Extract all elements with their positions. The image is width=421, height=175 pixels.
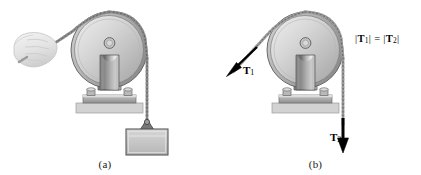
eq-left-symbol: T (357, 33, 364, 44)
mounting-bolt-right (124, 88, 132, 96)
base-slab (272, 103, 339, 113)
panel-b: (b) (210, 0, 421, 175)
panel-a-caption: (a) (0, 158, 210, 170)
block-hook (140, 119, 154, 130)
mounting-bolt-right (320, 88, 328, 96)
pulley-bracket-front (100, 55, 119, 90)
hanging-block (126, 129, 168, 155)
figure-container: (a) (0, 0, 421, 175)
eq-right-bar-close: | (397, 33, 399, 44)
tension-equality-equation: |T1| = |T2| (355, 33, 399, 45)
panel-a: (a) (0, 0, 210, 175)
eq-left-bar-close: | (369, 33, 371, 44)
mounting-plate (83, 95, 136, 103)
tension-label-t2-subscript: 2 (337, 135, 341, 144)
panel-b-illustration (210, 0, 421, 175)
pulley-axle-hub (104, 38, 115, 49)
eq-equals-sign: = (374, 33, 380, 44)
tension-label-t2: T2 (330, 131, 341, 144)
mounting-plate (279, 95, 332, 103)
mounting-bolt-left (283, 88, 291, 96)
tension-label-t1: T1 (243, 64, 254, 77)
pulley-bracket-front (296, 55, 315, 90)
base-slab (76, 103, 143, 113)
mounting-bolt-left (87, 88, 95, 96)
tension-label-t1-subscript: 1 (250, 68, 254, 77)
eq-right-symbol: T (386, 33, 393, 44)
panel-a-illustration (0, 0, 210, 175)
hand-gripping-chain (14, 33, 57, 68)
panel-b-caption: (b) (210, 158, 421, 170)
pulley-axle-hub (300, 38, 311, 49)
